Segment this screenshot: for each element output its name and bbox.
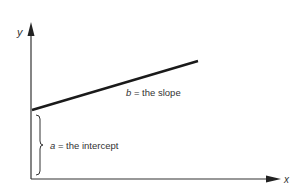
slope-label: b = the slope [126,87,181,98]
intercept-label: a = the intercept [50,140,119,151]
x-axis-arrow-icon [266,176,281,183]
y-axis-label: y [16,26,24,38]
intercept-brace [36,115,43,175]
regression-line [32,61,198,110]
x-axis-label: x [283,174,290,185]
y-axis-arrow-icon [28,22,35,36]
regression-diagram: y x b = the slope a = the intercept [0,0,300,191]
